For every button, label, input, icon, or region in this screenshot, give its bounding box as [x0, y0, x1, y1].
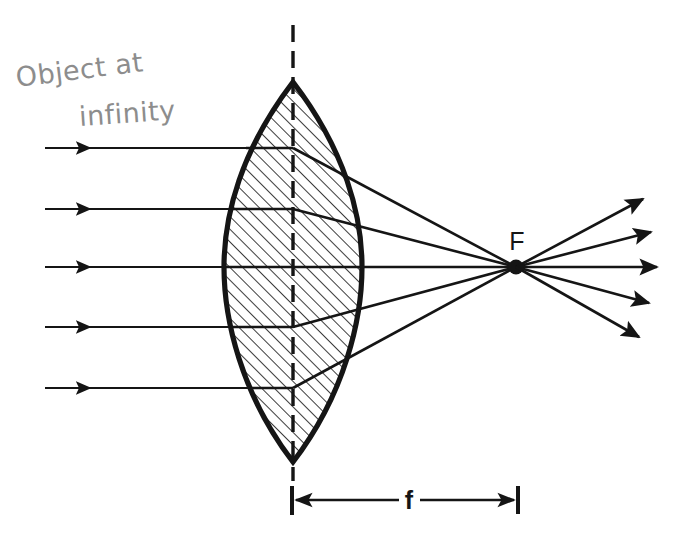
focal-point-label: F [509, 227, 524, 255]
diverging-rays [516, 199, 657, 337]
diverging-ray-2 [516, 232, 651, 267]
focal-length-label: f [405, 486, 414, 514]
diverging-ray-5 [516, 267, 639, 337]
incoming-parallel-rays [45, 148, 249, 388]
focal-length-dimension: f [292, 486, 518, 515]
diverging-ray-1 [516, 199, 643, 267]
ray-diagram-figure: F f Object at infinity [0, 0, 694, 545]
diverging-ray-4 [516, 267, 649, 303]
ray-diagram-canvas: F f [0, 0, 694, 545]
